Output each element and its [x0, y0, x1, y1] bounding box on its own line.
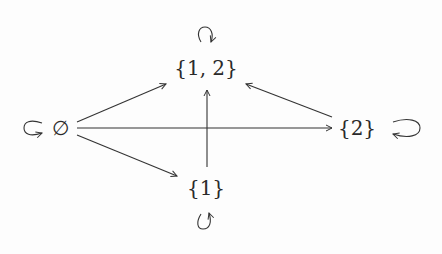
edge-empty-to-12 [77, 84, 166, 122]
node-set-1: {1} [187, 176, 225, 200]
diagram-canvas: ∅ {1, 2} {2} {1} [0, 0, 442, 254]
edge-2-to-12 [246, 84, 332, 117]
node-set-1-2: {1, 2} [174, 56, 238, 80]
self-loop-empty-icon [24, 121, 42, 135]
self-loop-12-icon [198, 27, 212, 42]
node-empty-set: ∅ [52, 116, 69, 140]
node-set-2: {2} [338, 116, 376, 140]
edge-empty-to-1 [77, 135, 177, 176]
self-loop-2-icon [393, 120, 420, 137]
self-loop-1-icon [198, 213, 211, 229]
